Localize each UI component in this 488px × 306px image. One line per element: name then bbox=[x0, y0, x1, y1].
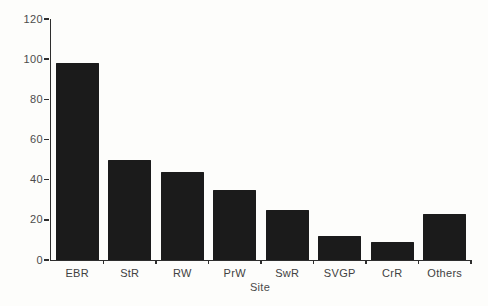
x-tick-mark bbox=[365, 260, 366, 264]
y-tick-label: 120 bbox=[3, 13, 43, 26]
y-tick-mark bbox=[44, 18, 49, 19]
y-tick-mark bbox=[44, 179, 49, 180]
bar-RW bbox=[161, 172, 204, 260]
x-tick-mark bbox=[470, 260, 471, 264]
bar-EBR bbox=[56, 63, 99, 260]
y-tick-mark bbox=[44, 259, 49, 260]
bar-Others bbox=[423, 214, 466, 260]
x-tick-mark bbox=[155, 260, 156, 264]
y-tick-mark bbox=[44, 58, 49, 59]
x-category-label-PrW: PrW bbox=[205, 267, 265, 279]
bar-SVGP bbox=[318, 236, 361, 260]
y-tick-label: 40 bbox=[3, 173, 43, 186]
x-category-label-EBR: EBR bbox=[47, 267, 107, 279]
x-tick-mark bbox=[418, 260, 419, 264]
y-tick-label: 20 bbox=[3, 213, 43, 226]
y-tick-label: 0 bbox=[3, 254, 43, 267]
y-tick-mark bbox=[44, 139, 49, 140]
x-tick-mark bbox=[260, 260, 261, 264]
bar-CrR bbox=[371, 242, 414, 260]
y-tick-label: 80 bbox=[3, 93, 43, 106]
y-tick-mark bbox=[44, 219, 49, 220]
x-tick-mark bbox=[103, 260, 104, 264]
x-tick-mark bbox=[313, 260, 314, 264]
bar-PrW bbox=[213, 190, 256, 260]
x-category-label-RW: RW bbox=[152, 267, 212, 279]
x-axis-title: Site bbox=[50, 281, 470, 293]
plot-area: 020406080100120EBRStRRWPrWSwRSVGPCrROthe… bbox=[50, 19, 471, 261]
bar-StR bbox=[108, 160, 151, 260]
y-tick-label: 100 bbox=[3, 53, 43, 66]
x-category-label-CrR: CrR bbox=[362, 267, 422, 279]
bar-chart-figure: Number of birds 020406080100120EBRStRRWP… bbox=[0, 0, 488, 306]
y-tick-mark bbox=[44, 99, 49, 100]
x-category-label-SVGP: SVGP bbox=[310, 267, 370, 279]
x-category-label-Others: Others bbox=[415, 267, 475, 279]
x-category-label-SwR: SwR bbox=[257, 267, 317, 279]
x-category-label-StR: StR bbox=[100, 267, 160, 279]
bar-SwR bbox=[266, 210, 309, 260]
y-tick-label: 60 bbox=[3, 133, 43, 146]
x-tick-mark bbox=[208, 260, 209, 264]
